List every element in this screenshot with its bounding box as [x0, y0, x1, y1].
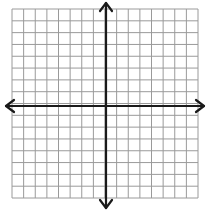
coordinate-plane: [0, 0, 210, 213]
